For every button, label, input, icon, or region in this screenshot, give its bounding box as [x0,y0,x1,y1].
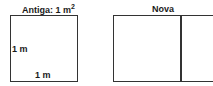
new-rectangle [113,15,213,82]
new-rectangle-divider [180,15,182,82]
old-title-text: Antiga: 1 m [22,5,71,15]
old-title-exponent: 2 [71,3,75,10]
old-bottom-side-label: 1 m [35,70,51,80]
old-figure-title: Antiga: 1 m2 [22,3,75,15]
new-figure-title: Nova [152,4,174,14]
old-left-side-label: 1 m [12,44,28,54]
